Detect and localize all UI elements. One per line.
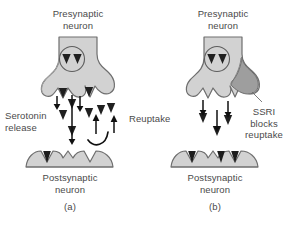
synaptic-vesicle-a	[60, 47, 85, 72]
synaptic-vesicle-b	[205, 47, 230, 72]
presynaptic-label-b: Presynaptic neuron	[173, 8, 273, 31]
postsynaptic-label-b: Postsynaptic neuron	[165, 172, 265, 195]
ssri-synapse-figure: Presynaptic neuron Serotonin release Reu…	[0, 0, 291, 225]
postsynaptic-neuron-a	[26, 151, 113, 167]
reuptake-curve-a	[88, 132, 108, 145]
postsynaptic-label-a: Postsynaptic neuron	[20, 172, 120, 195]
reuptake-label: Reuptake	[129, 113, 181, 125]
presynaptic-label-a: Presynaptic neuron	[28, 8, 128, 31]
reuptake-arrowheads-a	[93, 114, 118, 122]
ssri-blocks-reuptake-label: SSRI blocks reuptake	[238, 106, 290, 141]
panel-letter-b: (b)	[165, 201, 265, 213]
panel-b-graphics	[171, 37, 262, 167]
serotonin-release-label: Serotonin release	[5, 110, 65, 133]
ssri-leader-line-b	[252, 92, 262, 102]
postsynaptic-neuron-b	[171, 151, 258, 167]
panel-letter-a: (a)	[20, 201, 120, 213]
panel-a-graphics	[26, 37, 117, 167]
